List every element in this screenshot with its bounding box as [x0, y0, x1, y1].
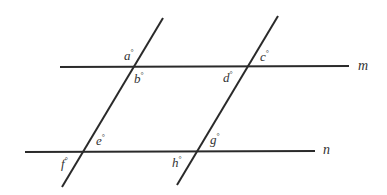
angle-f: f° — [61, 156, 68, 171]
svg-text:h°: h° — [172, 155, 182, 170]
line-label-n: n — [323, 142, 330, 157]
svg-text:b°: b° — [134, 71, 144, 86]
parallel-lines-diagram: m n a° b° c° d° e° f° g° h° — [0, 0, 387, 195]
degree-symbol: ° — [179, 155, 182, 164]
degree-symbol: ° — [217, 132, 220, 141]
svg-text:g°: g° — [210, 132, 220, 147]
angle-c: c° — [260, 49, 269, 64]
angle-g: g° — [210, 132, 220, 147]
angle-a: a° — [124, 48, 134, 63]
degree-symbol: ° — [230, 70, 233, 79]
left-transversal — [62, 18, 163, 187]
line-m — [60, 66, 349, 67]
svg-text:f°: f° — [61, 156, 68, 171]
right-transversal — [177, 16, 278, 185]
degree-symbol: ° — [102, 133, 105, 142]
line-label-m: m — [358, 58, 368, 73]
degree-symbol: ° — [266, 49, 269, 58]
svg-text:a°: a° — [124, 48, 134, 63]
angle-h: h° — [172, 155, 182, 170]
angle-b: b° — [134, 71, 144, 86]
line-n — [25, 151, 315, 152]
degree-symbol: ° — [65, 156, 68, 165]
angle-d: d° — [223, 70, 233, 85]
svg-text:c°: c° — [260, 49, 269, 64]
degree-symbol: ° — [131, 48, 134, 57]
svg-text:d°: d° — [223, 70, 233, 85]
degree-symbol: ° — [141, 71, 144, 80]
svg-text:e°: e° — [96, 133, 105, 148]
angle-e: e° — [96, 133, 105, 148]
